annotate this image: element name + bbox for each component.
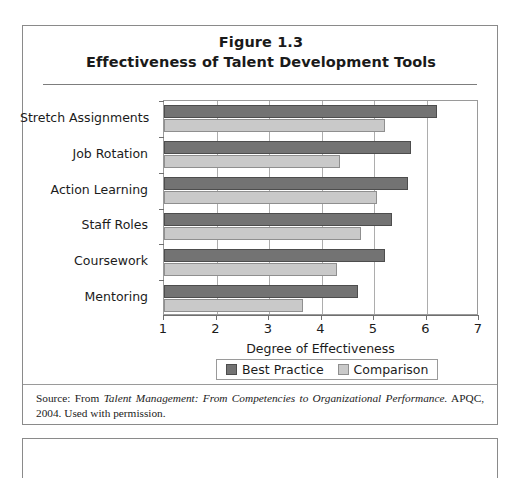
x-tick-1 [163, 315, 164, 320]
plot-box [163, 100, 478, 315]
bar-staff-roles-best-practice [164, 213, 392, 226]
source-title: Talent Management: From Competencies to … [104, 392, 448, 404]
x-tick-label-2: 2 [203, 321, 229, 336]
bar-stretch-assignments-comparison [164, 119, 385, 132]
y-tick-1 [159, 137, 164, 138]
legend-swatch-best-practice [226, 364, 237, 375]
bar-mentoring-best-practice [164, 285, 358, 298]
x-tick-5 [373, 315, 374, 320]
figure-title: Effectiveness of Talent Development Tool… [41, 52, 481, 72]
x-tick-label-4: 4 [308, 321, 334, 336]
x-tick-3 [268, 315, 269, 320]
bar-stretch-assignments-best-practice [164, 105, 437, 118]
category-label-action-learning: Action Learning [20, 182, 148, 197]
legend-item-comparison: Comparison [338, 362, 429, 377]
x-tick-2 [216, 315, 217, 320]
x-axis-title: Degree of Effectiveness [163, 341, 478, 356]
legend-swatch-comparison [338, 364, 349, 375]
x-tick-label-3: 3 [255, 321, 281, 336]
y-tick-4 [159, 244, 164, 245]
x-tick-4 [321, 315, 322, 320]
bar-action-learning-comparison [164, 191, 377, 204]
y-tick-2 [159, 173, 164, 174]
bar-staff-roles-comparison [164, 227, 361, 240]
x-tick-7 [478, 315, 479, 320]
y-tick-3 [159, 209, 164, 210]
next-figure-frame [22, 438, 498, 478]
y-tick-0 [159, 101, 164, 102]
figure-title-block: Figure 1.3 Effectiveness of Talent Devel… [41, 32, 481, 72]
category-label-coursework: Coursework [20, 253, 148, 268]
x-tick-label-5: 5 [360, 321, 386, 336]
x-tick-label-6: 6 [413, 321, 439, 336]
bar-mentoring-comparison [164, 299, 303, 312]
chart-area: Stretch AssignmentsJob RotationAction Le… [23, 92, 499, 362]
legend-label-comparison: Comparison [354, 362, 429, 377]
title-divider [43, 84, 477, 85]
category-label-stretch-assignments: Stretch Assignments [20, 110, 148, 125]
gridline-x-5 [374, 101, 375, 314]
category-label-staff-roles: Staff Roles [20, 217, 148, 232]
category-label-mentoring: Mentoring [20, 289, 148, 304]
bar-job-rotation-best-practice [164, 141, 411, 154]
x-tick-6 [426, 315, 427, 320]
source-divider [23, 384, 497, 385]
gridline-x-3 [269, 101, 270, 314]
bar-job-rotation-comparison [164, 155, 340, 168]
category-label-job-rotation: Job Rotation [20, 146, 148, 161]
bar-coursework-best-practice [164, 249, 385, 262]
x-tick-label-1: 1 [150, 321, 176, 336]
figure-frame: Figure 1.3 Effectiveness of Talent Devel… [22, 25, 498, 425]
x-tick-label-7: 7 [465, 321, 491, 336]
bar-coursework-comparison [164, 263, 337, 276]
source-note: Source: From Talent Management: From Com… [36, 391, 484, 420]
legend-label-best-practice: Best Practice [242, 362, 324, 377]
gridline-x-2 [217, 101, 218, 314]
category-axis: Stretch AssignmentsJob RotationAction Le… [23, 100, 154, 315]
bar-action-learning-best-practice [164, 177, 408, 190]
legend-item-best-practice: Best Practice [226, 362, 324, 377]
gridline-x-6 [427, 101, 428, 314]
chart-legend: Best Practice Comparison [216, 359, 438, 380]
source-prefix: Source: From [36, 392, 104, 404]
figure-number: Figure 1.3 [41, 32, 481, 52]
gridline-x-4 [322, 101, 323, 314]
y-tick-5 [159, 280, 164, 281]
